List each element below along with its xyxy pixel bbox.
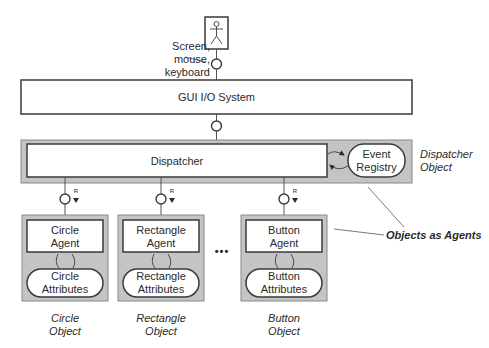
circle-object-line1: Circle (22, 312, 108, 325)
rectangle-port-icon (156, 194, 166, 204)
event-registry-label: Event Registry (348, 148, 405, 174)
event-registry-line1: Event (348, 148, 405, 161)
button-agent-line1: Button (246, 224, 322, 237)
screen-label-line1: Screen, (130, 40, 210, 53)
circle-port-icon (60, 194, 70, 204)
circle-attributes-label: Circle Attributes (27, 270, 103, 296)
screen-port-icon (212, 59, 222, 69)
circle-attr-line1: Circle (27, 270, 103, 283)
rectangle-object-line2: Object (118, 325, 204, 338)
rectangle-object-label: Rectangle Object (118, 312, 204, 338)
objects-as-agents-callout: Objects as Agents (386, 229, 486, 242)
button-object-line1: Button (241, 312, 327, 325)
port-marker-rectangle: R (169, 188, 175, 195)
button-port-icon (279, 194, 289, 204)
rectangle-attributes-label: Rectangle Attributes (123, 270, 199, 296)
screen-label: Screen, mouse, keyboard (130, 40, 210, 79)
circle-object-line2: Object (22, 325, 108, 338)
button-agent-line2: Agent (246, 237, 322, 250)
button-attributes-label: Button Attributes (246, 270, 322, 296)
circle-agent-line1: Circle (27, 224, 103, 237)
r-arrow-icons (73, 198, 298, 203)
circle-agent-line2: Agent (27, 237, 103, 250)
gui-io-label: GUI I/O System (21, 91, 412, 104)
screen-label-line2: mouse, keyboard (130, 53, 210, 79)
dispatcher-object-line2: Object (420, 161, 480, 174)
dispatcher-label: Dispatcher (27, 155, 327, 168)
gui-port-icon (212, 121, 222, 131)
button-attr-line2: Attributes (246, 283, 322, 296)
circle-agent-label: Circle Agent (27, 224, 103, 250)
button-object-line2: Object (241, 325, 327, 338)
rectangle-object-line1: Rectangle (118, 312, 204, 325)
circle-object-label: Circle Object (22, 312, 108, 338)
rectangle-agent-line1: Rectangle (123, 224, 199, 237)
port-marker-button: R (292, 188, 298, 195)
rectangle-attr-line1: Rectangle (123, 270, 199, 283)
dispatcher-object-label: Dispatcher Object (420, 148, 480, 174)
button-agent-label: Button Agent (246, 224, 322, 250)
button-attr-line1: Button (246, 270, 322, 283)
rectangle-attr-line2: Attributes (123, 283, 199, 296)
circle-attr-line2: Attributes (27, 283, 103, 296)
port-marker-circle: R (73, 188, 79, 195)
rectangle-agent-line2: Agent (123, 237, 199, 250)
dispatcher-object-line1: Dispatcher (420, 148, 480, 161)
ellipsis-icon: ••• (207, 245, 237, 258)
button-object-label: Button Object (241, 312, 327, 338)
event-registry-line2: Registry (348, 161, 405, 174)
rectangle-agent-label: Rectangle Agent (123, 224, 199, 250)
